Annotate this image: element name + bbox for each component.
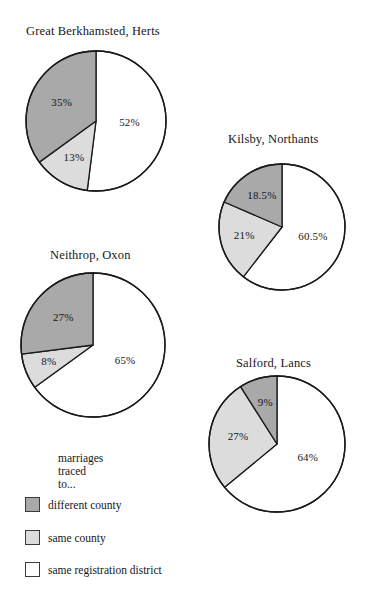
pie-slice-label: 13% — [64, 151, 85, 163]
pie-chart-kilsby: 60.5%21%18.5% — [215, 160, 349, 294]
pie-slice-label: 9% — [258, 396, 273, 408]
pie-slice-label: 60.5% — [298, 230, 327, 242]
figure-canvas: 52%13%35%Great Berkhamsted, Herts60.5%21… — [0, 0, 373, 599]
pie-slice-label: 27% — [228, 430, 249, 442]
legend-item-label: same registration district — [48, 564, 162, 576]
pie-slice-label: 27% — [53, 311, 74, 323]
legend-item: same registration district — [25, 562, 162, 577]
legend-swatch-icon — [25, 530, 40, 545]
pie-slice-label: 18.5% — [247, 189, 276, 201]
chart-title-salford: Salford, Lancs — [236, 356, 311, 371]
legend-swatch-icon — [25, 562, 40, 577]
pie-chart-great-berkhamsted: 52%13%35% — [22, 47, 170, 195]
chart-title-kilsby: Kilsby, Northants — [228, 132, 319, 147]
legend-swatch-icon — [25, 497, 40, 512]
pie-slice-label: 52% — [119, 116, 140, 128]
pie-slice-label: 35% — [51, 96, 72, 108]
pie-slice-label: 65% — [115, 354, 136, 366]
legend-caption: marriages traced to... — [58, 452, 103, 491]
chart-title-neithrop: Neithrop, Oxon — [50, 248, 131, 263]
pie-slice-label: 21% — [234, 229, 255, 241]
legend-item: different county — [25, 497, 122, 512]
chart-title-great-berkhamsted: Great Berkhamsted, Herts — [26, 24, 160, 39]
pie-slice-label: 8% — [41, 355, 56, 367]
pie-chart-salford: 64%27%9% — [205, 372, 349, 516]
pie-chart-neithrop: 65%8%27% — [17, 269, 169, 421]
legend-item: same county — [25, 530, 106, 545]
pie-slice-label: 64% — [297, 451, 318, 463]
legend-item-label: same county — [48, 532, 106, 544]
legend-item-label: different county — [48, 499, 122, 511]
